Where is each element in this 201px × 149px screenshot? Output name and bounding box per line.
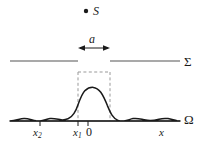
x2-subscript: 2 xyxy=(38,131,42,140)
sigma-plane-label: Σ xyxy=(184,55,192,68)
x1-subscript: 1 xyxy=(78,131,82,140)
origin-tick-label: 0 xyxy=(86,126,92,138)
x-axis-label: x xyxy=(159,127,164,138)
aperture-width-label: a xyxy=(89,33,95,45)
omega-plane-label: Ω xyxy=(184,113,194,126)
aperture-dimension-arrow xyxy=(78,45,110,50)
intensity-profile-curve xyxy=(10,87,180,121)
x2-tick-label: x2 xyxy=(33,127,42,139)
aperture-projection-box xyxy=(78,72,110,121)
source-label: S xyxy=(93,5,99,17)
x1-tick-label: x1 xyxy=(73,127,82,139)
diffraction-figure: S a Σ Ω x2 x1 0 x xyxy=(0,0,201,149)
figure-canvas xyxy=(0,0,201,149)
source-point-marker xyxy=(84,9,88,13)
